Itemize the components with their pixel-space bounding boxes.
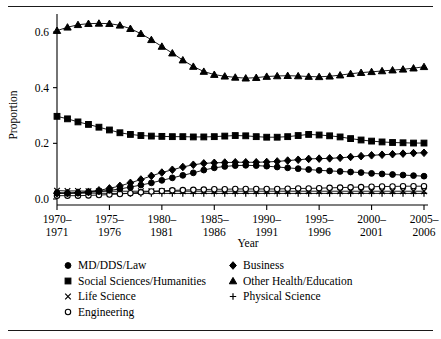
marker-filled-square bbox=[65, 278, 71, 284]
marker-filled-diamond bbox=[410, 149, 417, 157]
marker-filled-diamond bbox=[179, 163, 186, 171]
marker-filled-square bbox=[222, 133, 228, 139]
legend-item[interactable]: Other Health/Education bbox=[229, 275, 352, 287]
marker-open-circle bbox=[170, 188, 175, 193]
marker-filled-square bbox=[411, 140, 417, 146]
marker-plus bbox=[230, 293, 236, 299]
legend-item[interactable]: Life Science bbox=[65, 290, 136, 302]
marker-filled-square bbox=[232, 133, 238, 139]
marker-filled-diamond bbox=[326, 155, 333, 163]
marker-filled-triangle bbox=[190, 63, 197, 69]
legend-item[interactable]: Business bbox=[230, 259, 285, 271]
marker-open-circle bbox=[379, 184, 384, 189]
marker-open-circle bbox=[201, 187, 206, 192]
marker-open-circle bbox=[138, 190, 143, 195]
marker-filled-diamond bbox=[337, 154, 344, 162]
legend-label: Life Science bbox=[78, 290, 136, 302]
marker-filled-square bbox=[243, 133, 249, 139]
marker-filled-square bbox=[306, 132, 312, 138]
y-tick-label: 0.6 bbox=[35, 26, 50, 38]
series-social-sciences-humanities bbox=[54, 113, 427, 146]
x-tick-label-bottom: 2001 bbox=[360, 226, 383, 238]
legend-item[interactable]: Engineering bbox=[65, 306, 134, 319]
marker-filled-diamond bbox=[368, 152, 375, 160]
x-tick-label-bottom: 2006 bbox=[413, 226, 436, 238]
x-tick-label-top: 1995– bbox=[305, 213, 334, 225]
marker-open-circle bbox=[421, 183, 426, 188]
marker-filled-circle bbox=[306, 167, 312, 173]
marker-open-circle bbox=[212, 187, 217, 192]
marker-filled-circle bbox=[400, 172, 406, 178]
marker-open-circle bbox=[400, 183, 405, 188]
marker-filled-circle bbox=[358, 170, 364, 176]
marker-open-circle bbox=[65, 309, 70, 314]
marker-filled-diamond bbox=[169, 166, 176, 174]
marker-open-circle bbox=[285, 186, 290, 191]
marker-filled-square bbox=[201, 134, 207, 140]
marker-filled-diamond bbox=[358, 152, 365, 160]
marker-open-circle bbox=[390, 184, 395, 189]
marker-filled-diamond bbox=[200, 160, 207, 168]
marker-filled-square bbox=[358, 137, 364, 143]
marker-open-circle bbox=[149, 189, 154, 194]
line-chart-figure: 0.00.20.40.6 1970–19711975–19761980–1981… bbox=[0, 0, 441, 339]
marker-filled-square bbox=[96, 124, 102, 130]
marker-open-circle bbox=[327, 185, 332, 190]
marker-filled-square bbox=[379, 139, 385, 145]
y-tick-label: 0.0 bbox=[35, 193, 50, 205]
marker-open-circle bbox=[191, 187, 196, 192]
marker-filled-triangle bbox=[148, 36, 155, 42]
legend-label: MD/DDS/Law bbox=[78, 259, 147, 271]
marker-open-circle bbox=[264, 186, 269, 191]
marker-filled-square bbox=[180, 134, 186, 140]
x-tick-label-top: 1985– bbox=[200, 213, 229, 225]
marker-open-circle bbox=[411, 183, 416, 188]
marker-filled-circle bbox=[411, 173, 417, 179]
x-tick-label-bottom: 1986 bbox=[203, 226, 226, 238]
marker-filled-square bbox=[316, 132, 322, 138]
marker-filled-circle bbox=[65, 263, 71, 269]
x-tick-label-top: 1990– bbox=[252, 213, 281, 225]
marker-open-circle bbox=[233, 186, 238, 191]
marker-filled-circle bbox=[337, 169, 343, 175]
marker-filled-triangle bbox=[95, 20, 102, 26]
marker-open-circle bbox=[254, 186, 259, 191]
marker-filled-diamond bbox=[305, 155, 312, 163]
marker-filled-square bbox=[274, 134, 280, 140]
chart-canvas: 0.00.20.40.6 1970–19711975–19761980–1981… bbox=[0, 0, 441, 339]
marker-filled-square bbox=[190, 134, 196, 140]
marker-filled-diamond bbox=[137, 176, 144, 184]
marker-filled-circle bbox=[148, 180, 154, 186]
marker-filled-diamond bbox=[421, 149, 428, 157]
marker-filled-triangle bbox=[169, 50, 176, 56]
marker-filled-circle bbox=[190, 170, 196, 176]
x-tick-label-bottom: 1996 bbox=[308, 226, 331, 238]
marker-open-circle bbox=[306, 186, 311, 191]
legend-item[interactable]: MD/DDS/Law bbox=[65, 259, 147, 271]
marker-filled-circle bbox=[180, 172, 186, 178]
marker-filled-square bbox=[75, 119, 81, 125]
marker-filled-square bbox=[285, 134, 291, 140]
marker-filled-square bbox=[369, 138, 375, 144]
x-tick-label-bottom: 1981 bbox=[150, 226, 173, 238]
legend-label: Engineering bbox=[78, 306, 134, 319]
x-tick-label-top: 1980– bbox=[147, 213, 176, 225]
marker-filled-diamond bbox=[158, 169, 165, 177]
marker-filled-square bbox=[337, 134, 343, 140]
marker-filled-circle bbox=[327, 168, 333, 174]
legend-item[interactable]: Social Sciences/Humanities bbox=[65, 275, 206, 287]
marker-filled-triangle bbox=[137, 30, 144, 36]
marker-filled-triangle bbox=[179, 57, 186, 63]
chart-legend: MD/DDS/LawSocial Sciences/HumanitiesLife… bbox=[65, 259, 353, 319]
marker-open-circle bbox=[128, 190, 133, 195]
legend-item[interactable]: Physical Science bbox=[230, 290, 321, 303]
y-axis-title: Proportion bbox=[7, 90, 20, 139]
marker-filled-circle bbox=[295, 166, 301, 172]
x-tick-label-top: 1970– bbox=[43, 213, 72, 225]
marker-filled-triangle bbox=[284, 72, 291, 78]
marker-filled-diamond bbox=[284, 157, 291, 165]
marker-filled-circle bbox=[390, 172, 396, 178]
marker-filled-square bbox=[253, 134, 259, 140]
marker-filled-square bbox=[327, 133, 333, 139]
x-tick-label-bottom: 1971 bbox=[46, 226, 69, 238]
